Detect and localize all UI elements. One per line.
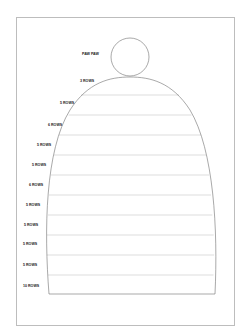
row-lines	[47, 95, 214, 275]
row-label: 5 ROWS	[32, 163, 47, 167]
row-label: 6 ROWS	[48, 123, 63, 127]
row-labels: 3 ROWS5 ROWS6 ROWS5 ROWS5 ROWS6 ROWS5 RO…	[23, 79, 95, 288]
row-label: 5 ROWS	[60, 101, 75, 105]
row-label: 5 ROWS	[23, 263, 38, 267]
row-label: 5 ROWS	[24, 223, 39, 227]
planting-diagram: PAW PAW 3 ROWS5 ROWS6 ROWS5 ROWS5 ROWS6 …	[0, 0, 239, 334]
label-paw-paw: PAW PAW	[82, 52, 99, 56]
row-label: 6 ROWS	[29, 183, 44, 187]
row-label: 5 ROWS	[37, 143, 52, 147]
row-label: 3 ROWS	[80, 79, 95, 83]
row-label: 5 ROWS	[23, 242, 38, 246]
head-circle	[111, 38, 149, 76]
row-label: 10 ROWS	[23, 284, 40, 288]
arch-outline	[47, 77, 216, 294]
row-label: 5 ROWS	[26, 203, 41, 207]
